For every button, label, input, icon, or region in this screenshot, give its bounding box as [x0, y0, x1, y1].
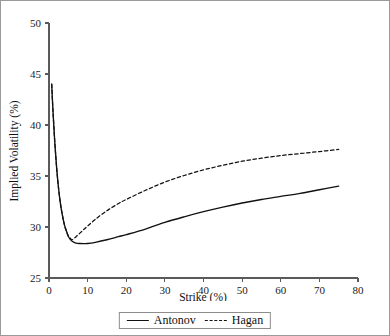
figure-container: 253035404550 01020304050607080 Strike (%…: [0, 0, 390, 336]
x-tick-label: 0: [46, 284, 52, 296]
legend-label-antonov: Antonov: [154, 314, 196, 326]
y-tick-label: 40: [30, 119, 42, 131]
y-axis: 253035404550: [30, 17, 49, 284]
x-tick-label: 50: [237, 284, 249, 296]
x-tick-label: 60: [275, 284, 287, 296]
x-tick-label: 70: [314, 284, 326, 296]
legend-entry-antonov: Antonov: [127, 314, 196, 326]
series-line-hagan: [52, 84, 339, 240]
y-tick-label: 30: [30, 221, 42, 233]
legend-swatch-dashed-icon: [205, 320, 227, 321]
chart-plot-area: 253035404550 01020304050607080 Strike (%…: [1, 1, 390, 301]
legend-label-hagan: Hagan: [232, 314, 263, 326]
chart-legend: Antonov Hagan: [119, 312, 271, 329]
x-tick-label: 80: [353, 284, 365, 296]
x-axis-title: Strike (%): [179, 291, 227, 301]
y-tick-label: 25: [30, 272, 42, 284]
x-tick-label: 30: [159, 284, 171, 296]
x-tick-label: 20: [121, 284, 133, 296]
y-axis-title: Implied Volatility (%): [8, 100, 21, 201]
legend-entry-hagan: Hagan: [205, 314, 263, 326]
y-tick-label: 45: [30, 68, 42, 80]
y-tick-label: 50: [30, 17, 42, 29]
y-axis-ticks: 253035404550: [30, 17, 49, 284]
y-tick-label: 35: [30, 170, 42, 182]
data-series-group: [52, 84, 339, 243]
x-tick-label: 10: [82, 284, 94, 296]
legend-swatch-solid-icon: [127, 320, 149, 321]
